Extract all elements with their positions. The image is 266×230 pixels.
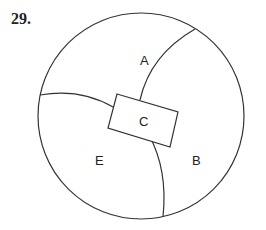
boundary-e-b <box>149 135 164 217</box>
region-diagram: A B C E <box>0 0 266 230</box>
region-label-a: A <box>140 53 149 68</box>
region-label-e: E <box>95 153 104 168</box>
region-label-c: C <box>139 114 148 129</box>
boundary-a-e <box>40 93 113 107</box>
region-label-b: B <box>192 153 201 168</box>
